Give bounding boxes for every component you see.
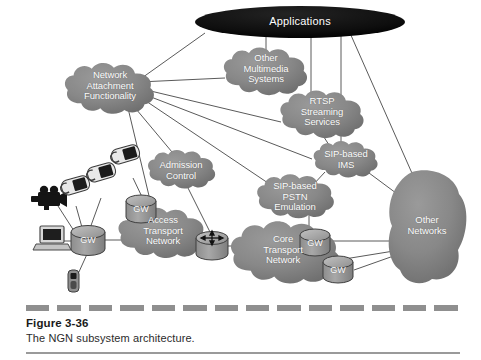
link-applications-network-attachment xyxy=(139,33,205,80)
link-na-rtsp xyxy=(138,88,281,122)
gateway-cylinder xyxy=(126,195,156,223)
link-na-other-multimedia xyxy=(139,78,225,82)
bottom-divider xyxy=(26,352,460,354)
figure-number: Figure 3-36 xyxy=(26,317,88,329)
node-other-networks xyxy=(389,170,467,283)
node-sip-based-ims xyxy=(314,141,378,178)
figure-description: The NGN subsystem architecture. xyxy=(26,332,195,344)
router-icon xyxy=(196,231,228,260)
node-rtsp-streaming-services xyxy=(280,91,363,139)
figure-caption-block: Figure 3-36 The NGN subsystem architectu… xyxy=(0,295,481,360)
ngn-architecture-diagram: Applications NetworkAttachmentFunctional… xyxy=(0,0,481,295)
gateway-cylinder xyxy=(323,256,353,283)
telephone-icon xyxy=(59,174,91,196)
node-sip-based-pstn-emulation xyxy=(257,174,334,218)
node-other-multimedia-systems xyxy=(224,48,307,96)
telephone-icon xyxy=(85,161,117,183)
node-network-attachment-functionality xyxy=(65,63,154,114)
gateway-cylinder xyxy=(300,229,330,256)
telephone-icon xyxy=(109,143,141,165)
node-applications xyxy=(195,6,405,38)
mobile-phone-icon xyxy=(68,270,79,292)
dashed-divider xyxy=(26,305,458,311)
gateway-cylinder xyxy=(71,226,105,256)
diagram-canvas xyxy=(0,0,481,295)
node-admission-control xyxy=(148,150,215,188)
figure-page: Applications NetworkAttachmentFunctional… xyxy=(0,0,481,360)
laptop-icon xyxy=(33,226,71,250)
